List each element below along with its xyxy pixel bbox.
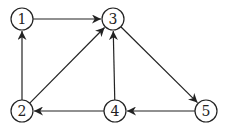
node-label: 5 [202, 103, 211, 119]
edges [22, 19, 197, 111]
node-2: 2 [11, 100, 33, 122]
node-5: 5 [195, 100, 217, 122]
node-label: 1 [18, 11, 27, 27]
node-label: 3 [109, 11, 118, 27]
node-3: 3 [102, 8, 124, 30]
directed-graph: 12345 [0, 0, 229, 128]
node-4: 4 [104, 100, 126, 122]
node-label: 2 [18, 103, 27, 119]
edge-4-to-3 [113, 31, 115, 100]
node-label: 4 [111, 103, 120, 119]
node-1: 1 [11, 8, 33, 30]
edge-2-to-3 [30, 28, 105, 104]
edge-3-to-5 [121, 27, 198, 103]
